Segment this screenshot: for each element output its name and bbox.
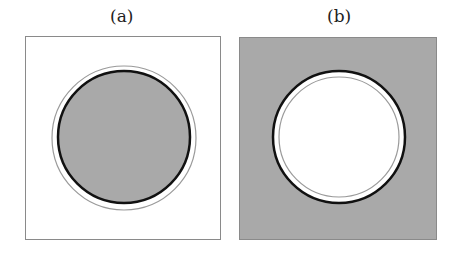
panel-a [26, 37, 221, 240]
panel-b [240, 38, 437, 240]
panel-a-filled-circle [58, 71, 190, 203]
diagram-canvas [0, 0, 458, 253]
panel-b-hole-circle [273, 71, 405, 203]
